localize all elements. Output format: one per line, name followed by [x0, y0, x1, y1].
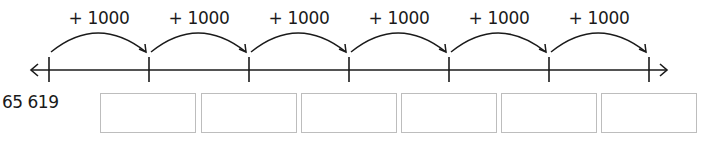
- jump-arc-3: [251, 33, 346, 52]
- jump-label-3: + 1000: [249, 8, 349, 28]
- jump-arc-4: [351, 33, 446, 52]
- jump-label-2: + 1000: [149, 8, 249, 28]
- answer-box-1[interactable]: [100, 93, 196, 133]
- jump-arc-6: [551, 33, 646, 52]
- answer-box-6[interactable]: [601, 93, 697, 133]
- jump-arc-2: [151, 33, 246, 52]
- jump-label-4: + 1000: [349, 8, 449, 28]
- start-value-label: 65 619: [2, 92, 58, 112]
- answer-box-3[interactable]: [301, 93, 397, 133]
- answer-box-4[interactable]: [401, 93, 497, 133]
- jump-arc-5: [451, 33, 546, 52]
- answer-box-2[interactable]: [201, 93, 297, 133]
- jump-label-6: + 1000: [549, 8, 649, 28]
- answer-box-5[interactable]: [501, 93, 597, 133]
- jump-arcs: [51, 33, 646, 52]
- jump-arc-1: [51, 33, 146, 52]
- jump-label-1: + 1000: [49, 8, 149, 28]
- jump-label-5: + 1000: [449, 8, 549, 28]
